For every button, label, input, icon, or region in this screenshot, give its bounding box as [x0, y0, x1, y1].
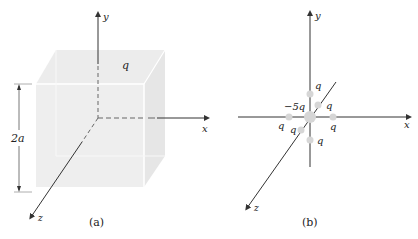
charge-dot-minus-x	[286, 114, 293, 121]
charge-dot-plus-x	[330, 114, 337, 121]
charge-label-front-z: q	[290, 124, 296, 135]
charge-label-minus-y: q	[317, 135, 323, 146]
charge-dot-back-z	[315, 102, 322, 109]
x-axis-label-a: x	[202, 123, 208, 134]
caption-a: (a)	[89, 216, 104, 229]
y-axis-label-a: y	[102, 11, 109, 22]
charge-label-minus-x: q	[278, 120, 284, 131]
center-charge-dot	[304, 111, 316, 123]
charge-dot-plus-y	[307, 91, 314, 98]
figure-canvas: y x z q 2a (a) y x z	[0, 0, 418, 239]
panel-b: y x z −5q q q q q q q (b)	[238, 10, 410, 229]
z-axis-label-a: z	[37, 213, 43, 223]
y-axis-label-b: y	[314, 10, 321, 21]
z-axis-label-b: z	[253, 203, 259, 213]
dimension-label: 2a	[10, 132, 25, 145]
center-charge-label: −5q	[284, 101, 305, 112]
charge-label-a: q	[122, 59, 129, 72]
charge-label-back-z: q	[326, 100, 332, 111]
panel-a: y x z q 2a (a)	[10, 11, 208, 229]
charge-dot-front-z	[298, 127, 305, 134]
dimension-2a: 2a	[10, 84, 32, 192]
caption-b: (b)	[302, 216, 318, 229]
x-axis-label-b: x	[404, 119, 410, 130]
charge-label-plus-y: q	[315, 80, 321, 91]
charge-label-plus-x: q	[330, 121, 336, 132]
charge-dot-minus-y	[307, 137, 314, 144]
